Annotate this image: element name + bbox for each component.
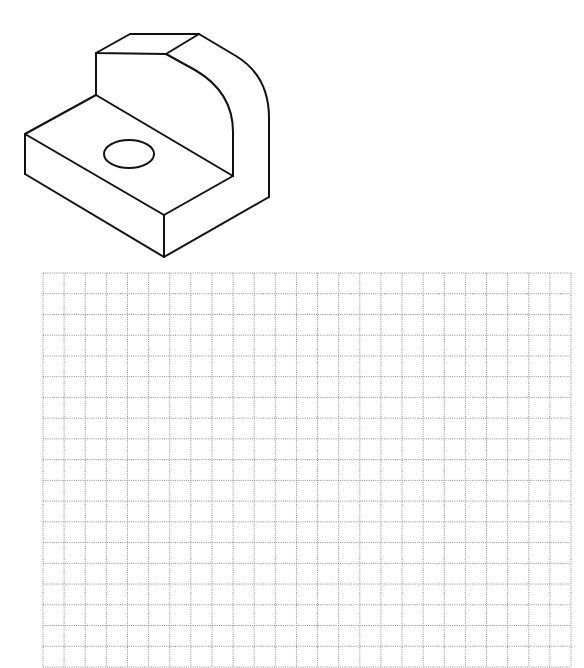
grid-lines bbox=[43, 273, 571, 667]
sketch-grid bbox=[0, 0, 584, 668]
